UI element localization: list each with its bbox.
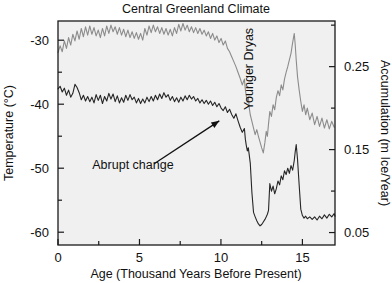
chart-title: Central Greenland Climate [122, 2, 270, 16]
y-axis-title: Temperature (°C) [2, 85, 16, 181]
annotation-younger-dryas: Younger Dryas [242, 28, 256, 110]
x-tick-label: 10 [214, 250, 228, 265]
x-tick-label: 0 [54, 250, 61, 265]
x-tick-label: 5 [136, 250, 143, 265]
chart-figure: Central Greenland Climate 051015-30-40-5… [0, 0, 392, 283]
x-axis-title: Age (Thousand Years Before Present) [90, 267, 301, 281]
y-tick-label: -60 [30, 225, 49, 240]
y-tick-label: -50 [30, 161, 49, 176]
x-tick-label: 15 [295, 250, 309, 265]
y2-tick-label: 0.05 [344, 225, 369, 240]
annotation-abrupt-change: Abrupt change [92, 158, 173, 172]
climate-chart: Central Greenland Climate 051015-30-40-5… [0, 0, 392, 283]
y2-tick-label: 0.25 [344, 59, 369, 74]
y-tick-label: -40 [30, 97, 49, 112]
plot-background [58, 21, 335, 245]
y-tick-label: -30 [30, 33, 49, 48]
y2-axis-title: Accumulation (m Ice/Year) [378, 60, 392, 206]
y2-tick-label: 0.15 [344, 142, 369, 157]
